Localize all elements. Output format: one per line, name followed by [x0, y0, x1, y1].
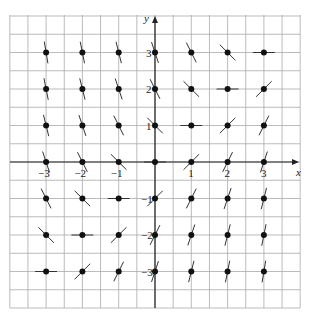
- slope-point: [261, 196, 267, 202]
- x-tick-label: −1: [111, 167, 123, 179]
- slope-point: [152, 86, 158, 92]
- slope-point: [152, 159, 158, 165]
- slope-point: [43, 232, 49, 238]
- slope-point: [43, 269, 49, 275]
- slope-point: [188, 123, 194, 129]
- slope-point: [225, 196, 231, 202]
- slope-point: [116, 159, 122, 165]
- slope-point: [43, 86, 49, 92]
- slope-point: [225, 50, 231, 56]
- slope-point: [79, 196, 85, 202]
- slope-point: [225, 232, 231, 238]
- y-tick-label: 2: [146, 83, 152, 95]
- slope-point: [79, 269, 85, 275]
- slope-point: [188, 159, 194, 165]
- y-axis-label: y: [143, 12, 149, 24]
- slope-point: [43, 123, 49, 129]
- slope-point: [261, 232, 267, 238]
- slope-point: [225, 123, 231, 129]
- x-axis-arrow-icon: [292, 159, 299, 165]
- slope-point: [261, 86, 267, 92]
- y-tick-label: 1: [146, 120, 152, 132]
- x-tick-label: 3: [261, 167, 267, 179]
- x-axis-label: x: [295, 166, 301, 178]
- slope-point: [116, 50, 122, 56]
- x-tick-label: 1: [188, 167, 194, 179]
- y-tick-label: 3: [146, 47, 152, 59]
- slope-point: [261, 159, 267, 165]
- slope-point: [261, 123, 267, 129]
- slope-point: [152, 123, 158, 129]
- slope-point: [79, 86, 85, 92]
- y-axis-arrow-icon: [152, 16, 158, 23]
- slope-point: [116, 123, 122, 129]
- slope-point: [152, 196, 158, 202]
- slope-point: [225, 159, 231, 165]
- x-tick-label: −2: [74, 167, 86, 179]
- slope-point: [261, 269, 267, 275]
- y-tick-label: −1: [141, 193, 153, 205]
- slope-point: [225, 269, 231, 275]
- slope-field-chart: −3−2−1123−3−2−1123xy: [0, 0, 311, 317]
- slope-point: [152, 50, 158, 56]
- slope-point: [43, 50, 49, 56]
- slope-point: [79, 123, 85, 129]
- slope-point: [152, 269, 158, 275]
- slope-point: [116, 232, 122, 238]
- slope-point: [116, 269, 122, 275]
- slope-point: [79, 232, 85, 238]
- slope-point: [43, 196, 49, 202]
- slope-point: [188, 50, 194, 56]
- slope-point: [225, 86, 231, 92]
- slope-point: [79, 159, 85, 165]
- slope-point: [43, 159, 49, 165]
- slope-point: [261, 50, 267, 56]
- slope-point: [188, 86, 194, 92]
- slope-point: [188, 269, 194, 275]
- slope-point: [152, 232, 158, 238]
- y-tick-label: −3: [141, 266, 153, 278]
- x-tick-label: 2: [225, 167, 231, 179]
- slope-point: [116, 196, 122, 202]
- slope-point: [188, 232, 194, 238]
- slope-point: [79, 50, 85, 56]
- y-tick-label: −2: [141, 229, 153, 241]
- slope-point: [116, 86, 122, 92]
- x-tick-label: −3: [38, 167, 50, 179]
- slope-point: [188, 196, 194, 202]
